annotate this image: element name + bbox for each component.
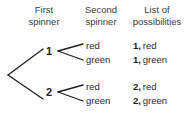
branch-2-to-red xyxy=(58,85,83,92)
tree-node-first-spinner-2: 2 xyxy=(46,86,52,98)
tree-node-second-spinner-1-red: red xyxy=(86,40,100,51)
tree-node-second-spinner-2-red: red xyxy=(86,81,100,92)
outcome-1-green-number: 1, xyxy=(133,54,143,65)
probability-tree-diagram: First spinner Second spinner List of pos… xyxy=(0,0,189,114)
branch-1-to-green xyxy=(58,51,83,60)
branch-1-to-red xyxy=(58,44,83,51)
tree-node-second-spinner-2-green: green xyxy=(86,95,110,106)
outcome-1-green: 1, green xyxy=(133,54,167,65)
branch-root-to-2 xyxy=(8,75,43,99)
outcome-2-red: 2, red xyxy=(133,81,157,92)
outcome-1-red-color: red xyxy=(143,40,157,51)
branch-root-to-1 xyxy=(8,49,43,75)
tree-node-first-spinner-1: 1 xyxy=(46,45,52,57)
branch-2-to-green xyxy=(58,92,83,101)
outcome-2-green: 2, green xyxy=(133,95,167,106)
outcome-2-red-number: 2, xyxy=(133,81,143,92)
outcome-2-green-number: 2, xyxy=(133,95,143,106)
outcome-1-red: 1, red xyxy=(133,40,157,51)
outcome-2-red-color: red xyxy=(143,81,157,92)
tree-node-second-spinner-1-green: green xyxy=(86,54,110,65)
outcome-1-green-color: green xyxy=(143,54,167,65)
outcome-2-green-color: green xyxy=(143,95,167,106)
outcome-1-red-number: 1, xyxy=(133,40,143,51)
